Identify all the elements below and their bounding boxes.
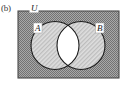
universe-label: U: [30, 3, 39, 13]
set-a-label: A: [34, 23, 43, 33]
set-a-label-text: A: [34, 23, 41, 33]
set-b-label: B: [96, 23, 105, 33]
universe-label-text: U: [31, 3, 38, 13]
set-b-label-text: B: [97, 23, 103, 33]
venn-diagram-graphic: U A B: [0, 0, 127, 89]
venn-diagram-figure: (b): [0, 0, 127, 89]
